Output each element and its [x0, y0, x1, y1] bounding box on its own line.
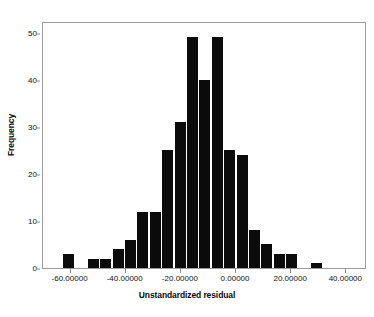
x-tick-mark: [345, 268, 346, 273]
x-tick-label: 0.00000: [221, 275, 250, 283]
histogram-bar: [249, 230, 260, 268]
x-tick-label: 40.00000: [329, 275, 362, 283]
y-tick-mark: [36, 80, 40, 81]
y-axis-title-text: Frequency: [6, 114, 16, 156]
histogram-bar: [100, 259, 111, 268]
histogram-bar: [175, 122, 186, 268]
histogram-bar: [125, 240, 136, 268]
y-tick-mark: [36, 221, 40, 222]
x-tick-label: 20.00000: [273, 275, 306, 283]
y-tick-mark: [36, 174, 40, 175]
x-tick-label: -20.00000: [162, 275, 198, 283]
y-tick-mark: [36, 127, 40, 128]
histogram-bar: [286, 254, 297, 268]
plot-area: [42, 22, 366, 269]
x-tick-mark: [235, 268, 236, 273]
histogram-bar: [162, 150, 173, 268]
histogram-bar: [88, 259, 99, 268]
histogram-bar: [274, 254, 285, 268]
x-tick-mark: [70, 268, 71, 273]
x-tick-mark: [125, 268, 126, 273]
histogram-figure: Frequency 01020304050 -60.00000-40.00000…: [0, 0, 374, 317]
x-tick-label: -60.00000: [52, 275, 88, 283]
histogram-bar: [199, 80, 210, 268]
histogram-bar: [150, 212, 161, 268]
x-tick-label: -40.00000: [107, 275, 143, 283]
bars-container: [43, 23, 365, 268]
histogram-bar: [187, 37, 198, 268]
y-tick-mark: [36, 33, 40, 34]
histogram-bar: [113, 249, 124, 268]
histogram-bar: [261, 244, 272, 268]
x-tick-mark: [290, 268, 291, 273]
histogram-bar: [224, 150, 235, 268]
histogram-bar: [212, 37, 223, 268]
histogram-bar: [237, 155, 248, 268]
x-axis-title: Unstandardized residual: [0, 290, 374, 300]
histogram-bar: [63, 254, 74, 268]
histogram-bar: [137, 212, 148, 268]
x-tick-mark: [180, 268, 181, 273]
